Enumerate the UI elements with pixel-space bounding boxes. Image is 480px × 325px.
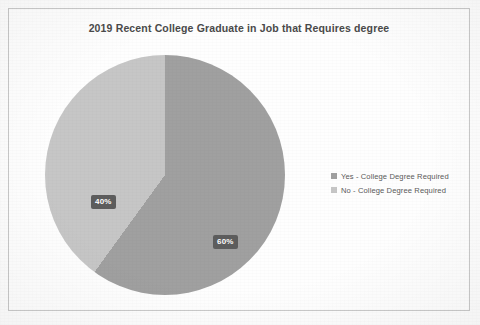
legend-label-yes: Yes - College Degree Required [341, 172, 449, 181]
chart-title: 2019 Recent College Graduate in Job that… [9, 22, 469, 34]
pie-slices [45, 55, 285, 295]
chart-frame: 2019 Recent College Graduate in Job that… [8, 8, 470, 311]
chart-legend: Yes - College Degree Required No - Colle… [331, 169, 477, 197]
slice-label-no: 40% [91, 195, 116, 209]
legend-label-no: No - College Degree Required [341, 186, 446, 195]
legend-item-no: No - College Degree Required [331, 183, 477, 197]
legend-swatch-icon-yes [331, 173, 337, 179]
legend-swatch-icon-no [331, 187, 337, 193]
legend-item-yes: Yes - College Degree Required [331, 169, 477, 183]
slice-label-yes: 60% [213, 235, 238, 249]
chart-screenshot: 2019 Recent College Graduate in Job that… [0, 0, 480, 325]
pie-chart: 40% 60% [45, 55, 285, 295]
